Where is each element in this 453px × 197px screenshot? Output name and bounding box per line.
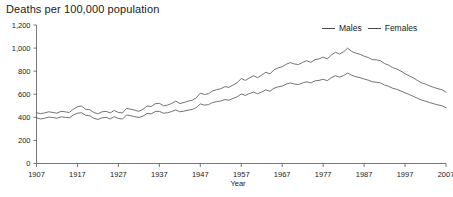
x-tick-label: 1957 — [233, 170, 250, 179]
x-axis-label: Year — [230, 179, 246, 188]
x-tick-label: 1977 — [315, 170, 332, 179]
y-tick-label: 1,200 — [12, 21, 31, 30]
x-tick-label: 2007 — [438, 170, 453, 179]
x-tick-label: 1947 — [192, 170, 209, 179]
y-axis: 1,2001,0008006004002000 — [12, 21, 37, 169]
x-tick-group: 1907191719271937194719571967197719871997… — [28, 164, 453, 179]
chart-svg: 1,2001,0008006004002000 1907191719271937… — [0, 0, 453, 197]
x-tick-label: 1927 — [110, 170, 127, 179]
series-line-females — [37, 73, 447, 119]
x-tick-label: 1937 — [151, 170, 168, 179]
x-tick-label: 1907 — [28, 170, 45, 179]
y-tick-label: 200 — [18, 136, 31, 145]
x-tick-label: 1997 — [397, 170, 414, 179]
y-tick-label: 400 — [18, 113, 31, 122]
x-tick-label: 1967 — [274, 170, 291, 179]
x-tick-label: 1987 — [356, 170, 373, 179]
x-tick-label: 1917 — [69, 170, 86, 179]
y-tick-label: 0 — [26, 159, 30, 168]
series-line-males — [37, 48, 447, 114]
y-tick-label: 600 — [18, 90, 31, 99]
x-axis: 1907191719271937194719571967197719871997… — [28, 164, 453, 179]
y-tick-label: 1,000 — [12, 44, 31, 53]
y-tick-label: 800 — [18, 67, 31, 76]
series-group — [37, 48, 447, 119]
chart-figure: Deaths per 100,000 population Males Fema… — [0, 0, 453, 197]
y-tick-group: 1,2001,0008006004002000 — [12, 21, 37, 169]
